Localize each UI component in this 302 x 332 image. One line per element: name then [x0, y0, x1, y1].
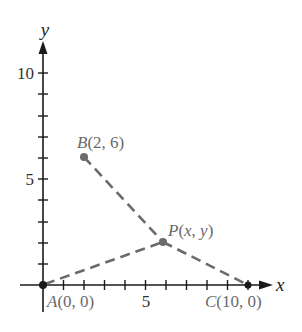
segment-a-p: [45, 242, 163, 284]
segment-p-c: [163, 242, 248, 285]
point-b: [80, 153, 88, 161]
label-point-b: B(2, 6): [77, 133, 124, 152]
x-axis-label: x: [275, 274, 285, 295]
y-axis-arrow-icon: [39, 41, 48, 54]
coordinate-diagram: 10 5 5 y x A(0, 0) B(2, 6) P(x, y) C(10,…: [0, 0, 302, 332]
segment-b-p: [84, 157, 163, 242]
label-point-a: A(0, 0): [46, 292, 94, 311]
x-axis-arrow-icon: [259, 281, 273, 290]
label-point-p: P(x, y): [167, 221, 213, 240]
point-c: [245, 282, 252, 289]
x-tick-label-5: 5: [142, 292, 151, 311]
label-point-c: C(10, 0): [205, 292, 262, 311]
y-tick-label-5: 5: [26, 170, 35, 189]
y-tick-label-10: 10: [17, 64, 34, 83]
y-axis-label: y: [39, 19, 50, 40]
point-p: [159, 238, 167, 246]
point-a: [39, 281, 47, 289]
